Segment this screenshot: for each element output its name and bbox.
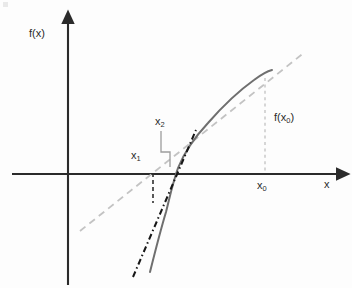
x-axis-label: x <box>324 179 330 190</box>
y-axis-label: f(x) <box>29 28 45 39</box>
x0-label-base: x <box>257 179 263 191</box>
fx0-label: f(x0) <box>274 112 294 123</box>
x1-label: x1 <box>131 150 141 161</box>
fx0-label-base: f(x <box>274 111 286 123</box>
x0-label: x0 <box>257 180 267 191</box>
x2-label-base: x <box>155 115 161 127</box>
x2-label-subscript: 2 <box>161 120 165 129</box>
x1-label-subscript: 1 <box>137 154 141 163</box>
x0-label-subscript: 0 <box>263 184 267 193</box>
plot-canvas <box>0 0 352 288</box>
fx0-label-close: ) <box>290 111 294 123</box>
x1-label-base: x <box>131 149 137 161</box>
function-curve <box>150 70 272 272</box>
figure-root: f(x) x2 x1 f(x0) x0 x <box>0 0 352 288</box>
fx0-label-subscript: 0 <box>286 116 290 125</box>
x2-label: x2 <box>155 116 165 127</box>
